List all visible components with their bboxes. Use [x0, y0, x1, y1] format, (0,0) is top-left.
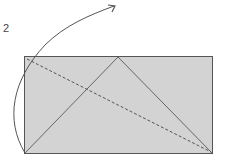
arrowhead-icon	[108, 5, 115, 12]
origami-diagram	[0, 0, 231, 161]
